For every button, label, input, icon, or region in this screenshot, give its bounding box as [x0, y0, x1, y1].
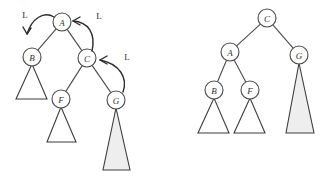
subtree-triangle-b — [198, 98, 229, 133]
arrow-g-to-c-label: L — [124, 52, 130, 62]
arrow-c-to-a — [73, 21, 93, 51]
tree-edge-c-g — [92, 65, 111, 92]
subtree-triangle-g — [103, 108, 130, 170]
tree-node-label-b: B — [29, 53, 35, 63]
tree-edge-c-a — [237, 24, 261, 46]
tree-node-label-b: B — [211, 86, 217, 96]
arrow-c-to-a-label: L — [96, 11, 102, 21]
tree-edge-a-b — [217, 60, 226, 81]
tree-rotation-diagram: ABCFGLLL CAGBF — [0, 0, 325, 182]
tree-node-label-a: A — [226, 48, 233, 58]
after-rotation-tree: CAGBF — [198, 9, 314, 133]
subtree-triangle-f — [234, 98, 265, 133]
tree-node-label-f: F — [57, 95, 64, 105]
tree-node-label-c: C — [84, 54, 91, 64]
tree-edge-a-f — [234, 60, 246, 82]
arrow-g-to-c — [100, 60, 124, 92]
tree-node-label-a: A — [58, 18, 65, 28]
diagram-canvas: ABCFGLLL CAGBF — [0, 0, 325, 182]
tree-node-label-g: G — [296, 51, 303, 61]
before-rotation-tree: ABCFGLLL — [16, 10, 130, 170]
arrow-a-to-b — [27, 15, 54, 34]
subtree-triangle-f — [47, 107, 76, 142]
subtree-triangle-b — [16, 64, 47, 99]
tree-edge-a-b — [38, 29, 56, 50]
tree-node-label-g: G — [113, 96, 120, 106]
tree-edge-a-c — [67, 29, 82, 50]
tree-edge-c-g — [273, 25, 293, 48]
tree-node-label-c: C — [264, 14, 271, 24]
arrow-a-to-b-label: L — [22, 10, 28, 20]
tree-node-label-f: F — [246, 86, 253, 96]
subtree-triangle-g — [286, 63, 314, 133]
arrow-g-to-c-head-icon — [100, 56, 107, 64]
tree-edge-c-f — [66, 66, 82, 92]
